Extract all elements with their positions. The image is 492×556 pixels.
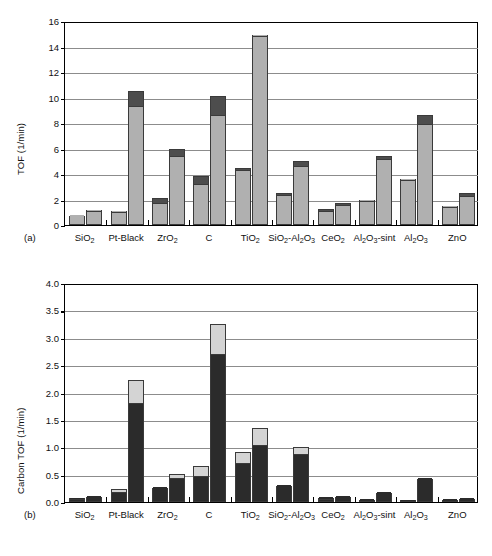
bar-segment-upper (294, 448, 308, 455)
category-separator-tick (231, 220, 232, 225)
y-tick-label: 0.5 (46, 471, 59, 481)
gridline (65, 48, 478, 49)
bar-segment-lower (377, 158, 391, 224)
bar-segment-lower (319, 210, 333, 224)
bar-segment-upper (236, 169, 250, 172)
gridline (65, 311, 478, 312)
category-label: TiO2 (241, 509, 260, 522)
bar (318, 209, 334, 225)
bar-segment-lower (70, 215, 84, 224)
bar-segment-upper (319, 210, 333, 212)
bar-segment-lower (418, 478, 432, 501)
y-tick-mark (61, 22, 65, 23)
category-label: ZnO (448, 232, 466, 243)
bar-segment-lower (336, 204, 350, 224)
category-label: Al2O3-sint (354, 509, 396, 522)
category-label: SiO2 (75, 509, 95, 522)
panel-a-wrapper: TOF (1/min) 0246810121416 (a) SiO2Pt-Bla… (0, 0, 492, 262)
chart-panel-b: Carbon TOF (1/min) 0.00.51.01.52.02.53.0… (0, 262, 492, 556)
bar (128, 91, 144, 226)
y-tick-mark (61, 175, 65, 176)
bar (169, 474, 185, 502)
bar (235, 168, 251, 225)
category-label: ZrO2 (157, 509, 177, 522)
category-separator-tick (313, 497, 314, 502)
category-label: C (205, 509, 212, 520)
y-tick-label: 4 (54, 170, 59, 180)
bar-segment-lower (87, 496, 101, 501)
category-separator-tick (148, 220, 149, 225)
bar (111, 211, 127, 225)
bar-segment-lower (153, 202, 167, 224)
bar (459, 499, 475, 502)
bar-segment-lower (336, 496, 350, 501)
category-separator-tick (396, 497, 397, 502)
bar (169, 149, 185, 226)
y-tick-label: 2.0 (46, 389, 59, 399)
bar-segment-upper (170, 475, 184, 479)
chart-panel-a: TOF (1/min) 0246810121416 (a) SiO2Pt-Bla… (0, 0, 492, 262)
bar-segment-upper (153, 199, 167, 203)
bar (376, 156, 392, 225)
category-separator-tick (438, 497, 439, 502)
bar-segment-upper (194, 177, 208, 185)
bar (252, 35, 268, 225)
plot-top-border (65, 284, 478, 285)
bar-segment-upper (211, 97, 225, 117)
y-tick-label: 16 (48, 17, 59, 27)
bar-segment-upper (336, 204, 350, 207)
category-separator-tick (189, 497, 190, 502)
panel-b-wrapper: Carbon TOF (1/min) 0.00.51.01.52.02.53.0… (0, 262, 492, 556)
bar-segment-upper (418, 116, 432, 124)
panel-a-category-axis: SiO2Pt-BlackZrO2CTiO2SiO2-Al2O3CeO2Al2O3… (0, 232, 492, 248)
bar-segment-upper (211, 325, 225, 355)
category-separator-tick (106, 220, 107, 225)
y-tick-mark (61, 284, 65, 285)
bar-segment-lower (377, 492, 391, 501)
category-label: SiO2-Al2O3 (268, 509, 315, 522)
panel-a-y-axis-title: TOF (1/min) (15, 123, 26, 175)
y-tick-label: 12 (48, 68, 59, 78)
category-separator-tick (396, 220, 397, 225)
bar-segment-lower (194, 183, 208, 224)
y-tick-label: 2.5 (46, 361, 59, 371)
bar-segment-upper (360, 201, 374, 202)
category-separator-tick (438, 220, 439, 225)
bar-segment-lower (294, 165, 308, 224)
category-label: TiO2 (241, 232, 260, 245)
bar-segment-upper (112, 212, 126, 213)
bar-segment-upper (129, 92, 143, 107)
bar (193, 466, 209, 502)
bar-segment-lower (443, 499, 457, 501)
bar-segment-lower (253, 444, 267, 501)
category-label: SiO2-Al2O3 (268, 232, 315, 245)
bar-segment-lower (129, 402, 143, 501)
bar-segment-upper (460, 194, 474, 197)
category-separator-tick (272, 220, 273, 225)
bar (400, 500, 416, 502)
category-label: ZrO2 (157, 232, 177, 245)
bar-segment-upper (253, 36, 267, 37)
bar-segment-lower (460, 195, 474, 224)
bar-segment-lower (294, 453, 308, 501)
y-tick-label: 14 (48, 43, 59, 53)
bar-segment-lower (360, 200, 374, 224)
bar (252, 428, 268, 502)
bar-segment-lower (129, 105, 143, 224)
y-tick-mark (61, 99, 65, 100)
category-separator-tick (148, 497, 149, 502)
bar-segment-upper (377, 157, 391, 161)
bar (459, 193, 475, 226)
bar-segment-upper (319, 499, 333, 500)
y-tick-label: 1.0 (46, 444, 59, 454)
category-separator-tick (189, 220, 190, 225)
bar (359, 200, 375, 225)
category-label: Al2O3-sint (354, 232, 396, 245)
y-tick-mark (61, 339, 65, 340)
y-tick-mark (61, 201, 65, 202)
plot-top-border (65, 22, 478, 23)
bar (359, 500, 375, 502)
bar-segment-lower (460, 498, 474, 501)
y-tick-mark (61, 421, 65, 422)
bar-segment-lower (236, 169, 250, 224)
